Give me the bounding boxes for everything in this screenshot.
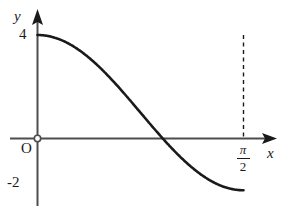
y-axis-label: y xyxy=(14,9,21,24)
x-tick-label-pi-over-2: π 2 xyxy=(231,143,255,174)
function-curve xyxy=(38,35,244,190)
plot-canvas xyxy=(0,0,291,206)
y-tick-label-4: 4 xyxy=(19,27,27,42)
math-graph-figure: y x 4 -2 O π 2 xyxy=(0,0,291,206)
x-axis-label: x xyxy=(267,146,274,161)
origin-marker-icon xyxy=(34,135,40,141)
y-tick-label-negative-2: -2 xyxy=(7,175,20,190)
pi-numerator: π xyxy=(231,143,255,157)
pi-denominator: 2 xyxy=(231,160,255,174)
origin-label: O xyxy=(21,141,32,156)
